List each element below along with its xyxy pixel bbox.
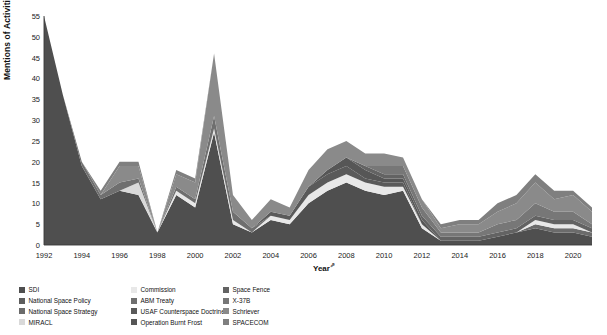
x-axis-tick-label: 2014 <box>451 251 468 260</box>
x-axis-tick-label: 2010 <box>376 251 393 260</box>
legend-item[interactable]: Operation Burnt Frost <box>131 317 225 327</box>
area-series-canvas <box>0 0 607 282</box>
legend-color-swatch <box>131 319 137 325</box>
legend-color-swatch <box>223 319 229 325</box>
legend-label: ABM Treaty <box>141 297 174 304</box>
plot-area: Mentions of Activities 05101520253035404… <box>0 0 607 282</box>
chart-legend: SDINational Space PolicyNational Space S… <box>0 285 607 333</box>
x-axis-tick-label: 2018 <box>527 251 544 260</box>
legend-item[interactable]: Schriever <box>223 307 270 317</box>
legend-item[interactable]: X-37B <box>223 296 270 306</box>
x-axis-tick-label: 2002 <box>225 251 242 260</box>
legend-color-swatch <box>19 298 25 304</box>
legend-label: Space Fence <box>233 286 271 293</box>
legend-color-swatch <box>19 287 25 293</box>
legend-item[interactable]: Space Fence <box>223 285 270 295</box>
x-axis-title: Year⇗ <box>313 261 335 273</box>
legend-color-swatch <box>223 308 229 314</box>
legend-item[interactable]: Commission <box>131 285 225 295</box>
legend-item[interactable]: SDI <box>19 285 97 295</box>
legend-color-swatch <box>223 287 229 293</box>
legend-label: National Space Strategy <box>29 308 98 315</box>
legend-item[interactable]: National Space Policy <box>19 296 97 306</box>
x-axis-tick-label: 1996 <box>111 251 128 260</box>
x-axis-tick-label: 2004 <box>262 251 279 260</box>
legend-item[interactable]: USAF Counterspace Doctrine <box>131 307 225 317</box>
legend-item[interactable]: MIRACL <box>19 317 97 327</box>
legend-color-swatch <box>19 319 25 325</box>
sort-arrow-icon: ⇗ <box>330 262 335 268</box>
legend-color-swatch <box>131 298 137 304</box>
legend-label: SDI <box>29 286 40 293</box>
legend-column: SDINational Space PolicyNational Space S… <box>19 285 97 328</box>
x-axis-title-text: Year <box>313 264 330 273</box>
x-axis-tick-label: 2006 <box>300 251 317 260</box>
legend-item[interactable]: National Space Strategy <box>19 307 97 317</box>
legend-label: Commission <box>141 286 176 293</box>
legend-item[interactable]: ABM Treaty <box>131 296 225 306</box>
legend-column: CommissionABM TreatyUSAF Counterspace Do… <box>131 285 225 328</box>
x-axis-tick-label: 2012 <box>414 251 431 260</box>
x-axis-tick-label: 2020 <box>565 251 582 260</box>
x-axis-tick-label: 2000 <box>187 251 204 260</box>
legend-label: MIRACL <box>29 319 53 326</box>
legend-item[interactable]: SPACECOM <box>223 317 270 327</box>
legend-label: X-37B <box>233 297 251 304</box>
legend-color-swatch <box>223 298 229 304</box>
legend-color-swatch <box>19 308 25 314</box>
legend-label: USAF Counterspace Doctrine <box>141 308 225 315</box>
x-axis-tick-label: 1992 <box>36 251 53 260</box>
legend-label: Operation Burnt Frost <box>141 319 202 326</box>
legend-color-swatch <box>131 287 137 293</box>
legend-column: Space FenceX-37BSchrieverSPACECOM <box>223 285 270 328</box>
x-axis-tick-label: 1998 <box>149 251 166 260</box>
legend-color-swatch <box>131 308 137 314</box>
stacked-area-chart: Mentions of Activities 05101520253035404… <box>0 0 607 335</box>
legend-label: SPACECOM <box>233 319 269 326</box>
x-axis-tick-label: 2016 <box>489 251 506 260</box>
legend-label: Schriever <box>233 308 260 315</box>
legend-label: National Space Policy <box>29 297 91 304</box>
x-axis-tick-label: 2008 <box>338 251 355 260</box>
x-axis-tick-label: 1994 <box>73 251 90 260</box>
